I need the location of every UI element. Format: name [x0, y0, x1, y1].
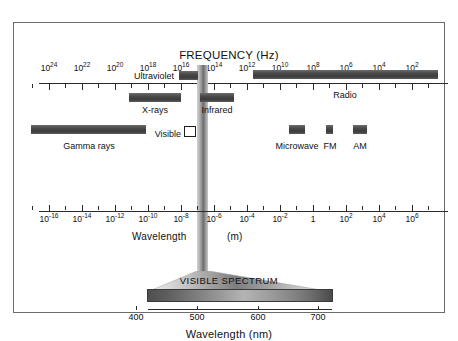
- axis-tick-label: 1022: [74, 63, 91, 73]
- axis-tick-exponent: 4: [382, 212, 386, 219]
- axis-tick-exponent: 2: [415, 61, 419, 68]
- wavelength-axis-line: [39, 211, 448, 212]
- axis-major-tick: [214, 84, 215, 90]
- axis-minor-tick: [98, 84, 99, 88]
- spectrum-band-label-gamma-rays: Gamma rays: [63, 141, 115, 151]
- axis-major-tick: [148, 205, 149, 211]
- axis-tick-exponent: -10: [148, 212, 157, 219]
- electromagnetic-spectrum-figure: FREQUENCY (Hz) 1024102210201018101610141…: [0, 0, 458, 341]
- visible-spectrum-title: VISIBLE SPECTRUM: [14, 275, 444, 286]
- axis-tick-label: 10-14: [73, 214, 92, 224]
- axis-tick-exponent: -4: [249, 212, 255, 219]
- axis-major-tick: [181, 205, 182, 211]
- spectrum-band-label-infrared: Infrared: [201, 105, 232, 115]
- axis-major-tick: [379, 84, 380, 90]
- axis-major-tick: [115, 84, 116, 90]
- axis-minor-tick: [131, 206, 132, 210]
- axis-minor-tick: [362, 206, 363, 210]
- spectrum-band-label-radio: Radio: [333, 90, 357, 100]
- figure-plate: FREQUENCY (Hz) 1024102210201018101610141…: [13, 22, 445, 313]
- axis-major-tick: [412, 205, 413, 211]
- axis-tick-exponent: -16: [49, 212, 58, 219]
- axis-minor-tick: [395, 84, 396, 88]
- axis-tick-label: 102: [339, 214, 352, 224]
- spectrum-band-bar-radio: [253, 70, 438, 79]
- axis-tick-exponent: 6: [349, 61, 353, 68]
- axis-minor-tick: [131, 84, 132, 88]
- axis-major-tick: [247, 205, 248, 211]
- axis-minor-tick: [164, 84, 165, 88]
- visible-spectrum-band: [147, 289, 333, 302]
- axis-major-tick: [82, 84, 83, 90]
- axis-minor-tick: [296, 206, 297, 210]
- spectrum-band-label-x-rays: X-rays: [142, 105, 168, 115]
- axis-tick-label: 1020: [107, 63, 124, 73]
- axis-minor-tick: [329, 84, 330, 88]
- axis-minor-tick: [230, 206, 231, 210]
- axis-tick-exponent: 12: [248, 61, 255, 68]
- visible-band-box: [184, 126, 196, 137]
- spectrum-band-bar-microwave: [289, 125, 305, 134]
- visible-spectrum-axis-title: Wavelength (nm): [14, 328, 444, 340]
- visible-spectrum-tick: [136, 306, 137, 310]
- spectrum-band-bar-gamma-rays: [31, 125, 146, 134]
- axis-tick-label: 10-16: [40, 214, 59, 224]
- spectrum-band-label-fm: FM: [324, 141, 337, 151]
- spectrum-band-bar-am: [353, 125, 367, 134]
- axis-minor-tick: [362, 84, 363, 88]
- axis-minor-tick: [296, 84, 297, 88]
- axis-minor-tick: [428, 84, 429, 88]
- axis-minor-tick: [197, 206, 198, 210]
- axis-major-tick: [49, 205, 50, 211]
- spectrum-band-bar-ultraviolet: [179, 71, 198, 80]
- axis-major-tick: [247, 84, 248, 90]
- axis-tick-label: 10-10: [139, 214, 158, 224]
- visible-spectrum-tick-label: 700: [310, 312, 325, 322]
- axis-minor-tick: [32, 84, 33, 88]
- axis-minor-tick: [329, 206, 330, 210]
- axis-minor-tick: [230, 84, 231, 88]
- axis-tick-label: 10-6: [206, 214, 221, 224]
- axis-tick-exponent: -2: [282, 212, 288, 219]
- axis-minor-tick: [263, 84, 264, 88]
- axis-tick-exponent: 8: [316, 61, 320, 68]
- axis-minor-tick: [65, 84, 66, 88]
- axis-tick-label: 106: [405, 214, 418, 224]
- axis-tick-exponent: 6: [415, 212, 419, 219]
- axis-tick-label: 10-4: [239, 214, 254, 224]
- axis-major-tick: [346, 205, 347, 211]
- axis-major-tick: [115, 205, 116, 211]
- axis-tick-exponent: -12: [115, 212, 124, 219]
- frequency-axis-title: FREQUENCY (Hz): [14, 49, 444, 61]
- axis-tick-exponent: 20: [116, 61, 123, 68]
- axis-major-tick: [379, 205, 380, 211]
- wavelength-axis-title: Wavelength: [132, 231, 186, 242]
- visible-spectrum-tick-label: 500: [189, 312, 204, 322]
- axis-tick-label: 104: [372, 214, 385, 224]
- axis-major-tick: [49, 84, 50, 90]
- axis-major-tick: [214, 205, 215, 211]
- axis-minor-tick: [395, 206, 396, 210]
- spectrum-band-label-ultraviolet: Ultraviolet: [134, 71, 174, 81]
- axis-tick-exponent: 10: [281, 61, 288, 68]
- axis-minor-tick: [32, 206, 33, 210]
- axis-tick-exponent: -8: [183, 212, 189, 219]
- spectrum-band-bar-fm: [326, 125, 333, 134]
- axis-tick-label: 10-12: [106, 214, 125, 224]
- visible-band-label: Visible: [155, 129, 181, 139]
- visible-spectrum-scale-line: [148, 309, 332, 310]
- visible-spectrum-tick: [318, 306, 319, 310]
- wavelength-axis-unit: (m): [227, 231, 243, 242]
- frequency-axis-line: [39, 83, 448, 84]
- axis-minor-tick: [65, 206, 66, 210]
- axis-major-tick: [412, 84, 413, 90]
- spectrum-band-bar-x-rays: [129, 93, 181, 102]
- axis-tick-exponent: 16: [182, 61, 189, 68]
- axis-minor-tick: [98, 206, 99, 210]
- axis-major-tick: [313, 205, 314, 211]
- axis-major-tick: [181, 84, 182, 90]
- axis-tick-label: 1024: [41, 63, 58, 73]
- axis-tick-label: 1: [311, 214, 316, 224]
- visible-spectrum-tick: [197, 306, 198, 310]
- axis-tick-label: 1014: [206, 63, 223, 73]
